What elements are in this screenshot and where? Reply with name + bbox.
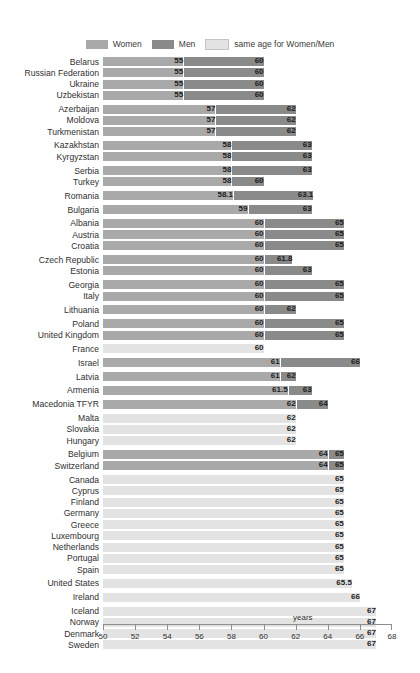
bar-row: 65 xyxy=(103,531,392,540)
bar-row: 65 xyxy=(103,554,392,563)
bar-row: 6061.8 xyxy=(103,255,392,264)
legend-swatch-men xyxy=(152,40,174,49)
axis-tick-label: 62 xyxy=(284,632,308,641)
category-label: Iceland xyxy=(71,606,99,616)
category-label: Belgium xyxy=(68,449,99,459)
pension-age-chart: WomenMensame age for Women/Men BelarusRu… xyxy=(0,0,420,673)
bar-value-label: 65 xyxy=(103,449,346,459)
bar-row: 6166 xyxy=(103,358,392,367)
bar-row: 6065 xyxy=(103,292,392,301)
value-axis: 50525456586062646668 xyxy=(103,624,392,654)
bar-value-label: 60 xyxy=(103,343,266,353)
bar-value-label: 65 xyxy=(103,229,346,239)
bar-row: 6062 xyxy=(103,305,392,314)
axis-tick xyxy=(391,624,392,630)
category-axis-labels: BelarusRussian FederationUkraineUzbekist… xyxy=(0,57,99,622)
bar-row: 61.563 xyxy=(103,386,392,395)
bar-value-label: 65 xyxy=(103,564,346,574)
bar-row: 65 xyxy=(103,498,392,507)
category-label: Malta xyxy=(78,413,99,423)
legend-item-same: same age for Women/Men xyxy=(205,39,334,50)
bar-row: 5860 xyxy=(103,177,392,186)
category-label: Russian Federation xyxy=(24,68,99,78)
axis-tick xyxy=(264,624,265,630)
axis-tick xyxy=(103,624,104,630)
category-label: Georgia xyxy=(68,280,99,290)
category-label: Sweden xyxy=(68,640,99,650)
bar-value-label: 63 xyxy=(103,385,314,395)
category-label: Estonia xyxy=(70,266,99,276)
bar-row: 5560 xyxy=(103,80,392,89)
legend-swatch-women xyxy=(86,40,108,49)
bar-row: 67 xyxy=(103,607,392,616)
bar-value-label: 63 xyxy=(103,151,314,161)
bar-value-label: 65 xyxy=(103,291,346,301)
axis-tick xyxy=(231,624,232,630)
bar-value-label: 66 xyxy=(103,592,362,602)
bar-row: 65 xyxy=(103,509,392,518)
axis-tick xyxy=(167,624,168,630)
axis-tick xyxy=(199,624,200,630)
bar-row: 62 xyxy=(103,436,392,445)
bar-value-label: 65 xyxy=(103,485,346,495)
axis-tick xyxy=(135,624,136,630)
bar-row: 58.163.1 xyxy=(103,191,392,200)
category-label: Luxembourg xyxy=(51,531,99,541)
bar-row: 66 xyxy=(103,593,392,602)
bar-value-label: 62 xyxy=(103,304,298,314)
bar-row: 5762 xyxy=(103,105,392,114)
legend-swatch-same xyxy=(205,39,229,50)
bar-rows: 5560556055605560576257625762586358635863… xyxy=(103,57,392,622)
chart-legend: WomenMensame age for Women/Men xyxy=(0,36,420,52)
axis-tick-label: 52 xyxy=(123,632,147,641)
category-label: Hungary xyxy=(67,436,99,446)
legend-label-men: Men xyxy=(179,40,196,49)
category-label: Norway xyxy=(70,617,99,627)
axis-tick-label: 66 xyxy=(348,632,372,641)
bar-row: 62 xyxy=(103,425,392,434)
bar-value-label: 65 xyxy=(103,240,346,250)
bar-row: 62 xyxy=(103,414,392,423)
category-label: Romania xyxy=(65,191,99,201)
category-label: Ireland xyxy=(73,592,99,602)
bar-value-label: 65 xyxy=(103,553,346,563)
bar-row: 6065 xyxy=(103,230,392,239)
category-label: Bulgaria xyxy=(67,205,99,215)
category-label: Italy xyxy=(83,291,99,301)
category-label: Austria xyxy=(72,230,99,240)
axis-tick-label: 56 xyxy=(187,632,211,641)
category-label: Macedonia TFYR xyxy=(32,399,99,409)
axis-tick-label: 68 xyxy=(380,632,404,641)
category-label: Switzerland xyxy=(55,461,99,471)
bar-row: 65 xyxy=(103,475,392,484)
axis-tick-label: 64 xyxy=(316,632,340,641)
bar-row: 6065 xyxy=(103,280,392,289)
category-label: Kazakhstan xyxy=(54,140,99,150)
bar-value-label: 60 xyxy=(103,90,266,100)
legend-item-men: Men xyxy=(152,40,196,49)
axis-line xyxy=(103,624,392,625)
axis-tick xyxy=(328,624,329,630)
category-label: Kyrgyzstan xyxy=(56,152,99,162)
bar-value-label: 65 xyxy=(103,330,346,340)
axis-unit-label: years xyxy=(293,613,313,622)
axis-tick xyxy=(296,624,297,630)
bar-value-label: 65 xyxy=(103,474,346,484)
bar-value-label: 60 xyxy=(103,176,266,186)
bar-row: 6065 xyxy=(103,319,392,328)
bar-value-label: 65 xyxy=(103,542,346,552)
bar-row: 5762 xyxy=(103,127,392,136)
bar-row: 65 xyxy=(103,520,392,529)
category-label: Azerbaijan xyxy=(58,104,99,114)
category-label: Spain xyxy=(77,565,99,575)
bar-row: 5762 xyxy=(103,116,392,125)
bar-row: 5863 xyxy=(103,152,392,161)
bar-value-label: 60 xyxy=(103,56,266,66)
bar-value-label: 63 xyxy=(103,204,314,214)
category-label: Canada xyxy=(69,475,99,485)
bar-row: 6065 xyxy=(103,331,392,340)
category-label: Poland xyxy=(72,319,99,329)
bar-value-label: 63.1 xyxy=(103,190,315,200)
axis-tick xyxy=(360,624,361,630)
category-label: Slovakia xyxy=(67,424,99,434)
